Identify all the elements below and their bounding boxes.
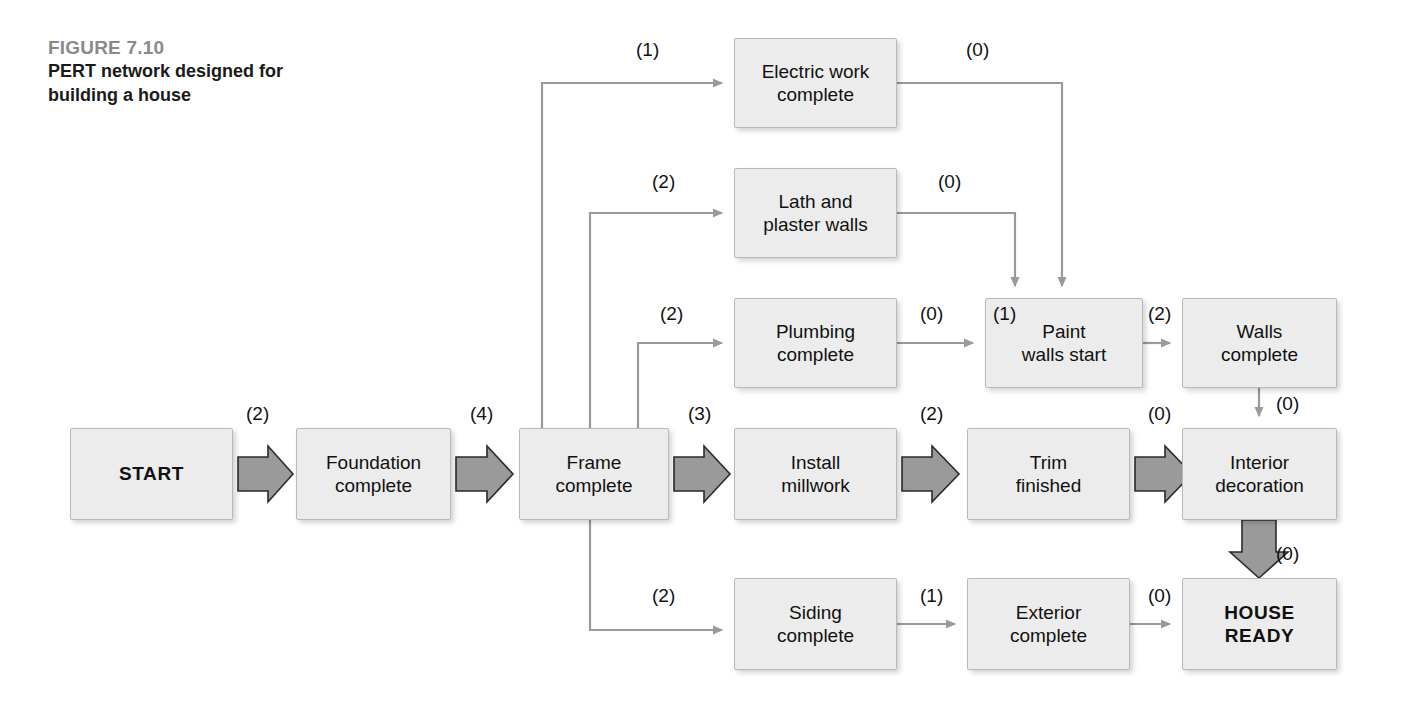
figure-title-line1: PERT network designed for [48,60,348,83]
node-label-start: START [119,462,184,485]
edge-weight-paint_walls: (2) [1148,304,1171,323]
edge-weight-interior_house: (0) [1276,544,1299,563]
figure-caption: FIGURE 7.10 PERT network designed for bu… [48,36,348,107]
node-label-foundation: Foundationcomplete [326,451,421,497]
edge-weight-frame_plumbing: (2) [660,304,683,323]
figure-title-line2: building a house [48,84,348,107]
edge-weight-plumbing_paint: (0) [920,304,943,323]
node-electric: Electric workcomplete [734,38,897,128]
edge-weight-frame_electric: (1) [636,40,659,59]
node-label-millwork: Installmillwork [781,451,850,497]
edge-weight-millwork_trim: (2) [920,404,943,423]
node-foundation: Foundationcomplete [296,428,451,520]
edge-foundation-frame [456,446,513,502]
node-label-plumbing: Plumbingcomplete [776,320,855,366]
node-label-houseready: HOUSEREADY [1224,601,1295,647]
edge-weight-trim_interior: (0) [1148,404,1171,423]
edge-weight-exterior_house: (0) [1148,586,1171,605]
node-label-frame: Framecomplete [555,451,632,497]
node-trim: Trimfinished [967,428,1130,520]
edge-weight-electric_paint: (0) [966,40,989,59]
node-label-electric: Electric workcomplete [762,60,870,106]
node-label-walls: Wallscomplete [1221,320,1298,366]
edge-lath-paint [897,213,1015,286]
edge-frame-electric [542,83,722,428]
edge-weight-frame_lath: (2) [652,172,675,191]
node-siding: Sidingcomplete [734,578,897,670]
node-start: START [70,428,233,520]
edge-electric-paint [897,83,1062,286]
node-label-interior: Interiordecoration [1215,451,1304,497]
node-frame: Framecomplete [519,428,669,520]
figure-number: FIGURE 7.10 [48,36,348,60]
edge-start-foundation [238,446,293,502]
node-millwork: Installmillwork [734,428,897,520]
edge-weight-foundation_frame: (4) [470,404,493,423]
edge-frame-millwork [674,446,730,502]
node-plumbing: Plumbingcomplete [734,298,897,388]
edge-weight-start_foundation: (2) [246,404,269,423]
edge-weight-frame_millwork: (3) [688,404,711,423]
node-label-lath: Lath andplaster walls [763,190,868,236]
node-label-exterior: Exteriorcomplete [1010,601,1087,647]
edge-millwork-trim [902,446,959,502]
edge-weight-frame_siding: (2) [652,586,675,605]
edge-frame-lath [590,213,722,428]
node-lath: Lath andplaster walls [734,168,897,258]
node-label-paintstart: Paintwalls start [1022,320,1106,366]
edge-weight-paint_inner: (1) [993,304,1016,323]
edge-weight-siding_exterior: (1) [920,586,943,605]
node-houseready: HOUSEREADY [1182,578,1337,670]
edge-frame-siding [590,520,722,630]
node-label-trim: Trimfinished [1016,451,1082,497]
thin-connectors [542,83,1259,630]
edge-weight-walls_interior: (0) [1276,394,1299,413]
node-exterior: Exteriorcomplete [967,578,1130,670]
node-interior: Interiordecoration [1182,428,1337,520]
edge-weight-lath_paint: (0) [938,172,961,191]
node-walls: Wallscomplete [1182,298,1337,388]
node-label-siding: Sidingcomplete [777,601,854,647]
